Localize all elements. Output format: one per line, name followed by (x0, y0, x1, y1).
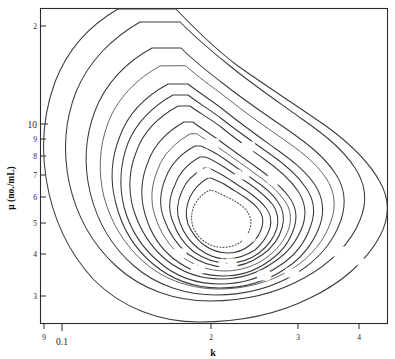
contour-label-12: 0.95 (331, 247, 348, 257)
contour-value-labels: 0.5 0.6 0.2 0.3 0.5 0.1 0.4 0.7 0.75 0.8… (174, 139, 376, 281)
y-tick-label-6: 6 (33, 193, 37, 202)
contour-label-3: 0.3 (236, 170, 248, 180)
plot-frame (41, 9, 388, 324)
contour-label-10: 0.9 (258, 271, 270, 281)
x-tick-label-009: 9 (42, 333, 46, 342)
y-tick-label-8: 8 (33, 152, 37, 161)
contour-path-0_99 (44, 9, 387, 322)
y-tick-label-9: 9 (33, 135, 37, 144)
x-axis-ticks (44, 324, 359, 332)
contour-label-13: 0.99 (359, 258, 376, 268)
plot-canvas: 2 10 9 8 7 6 5 4 3 9 0.1 2 3 4 k μ ( (0, 0, 395, 359)
x-tick-label-01: 0.1 (56, 337, 68, 347)
x-tick-label-3: 3 (296, 333, 300, 342)
x-axis-title: k (210, 347, 216, 358)
contour-path-0_9-inner (100, 66, 334, 289)
y-tick-label-3: 3 (33, 292, 37, 301)
y-axis-title: μ (no./mL) (6, 166, 17, 209)
contour-label-6: 0.4 (242, 232, 254, 242)
contour-label-1: 0.6 (242, 142, 254, 152)
contour-label-5: 0.1 (216, 210, 228, 220)
x-tick-label-4: 4 (357, 333, 361, 342)
x-axis-tick-labels: 9 0.1 2 3 4 (42, 333, 361, 347)
y-tick-label-7: 7 (33, 171, 37, 180)
contour-label-11: 0.9 (286, 268, 298, 278)
y-tick-label-10: 10 (28, 120, 38, 130)
x-tick-label-2: 2 (209, 333, 213, 342)
contour-label-9: 0.8 (192, 264, 204, 274)
contour-label-0: 0.5 (206, 139, 218, 149)
y-axis-tick-labels: 2 10 9 8 7 6 5 4 3 (28, 22, 38, 301)
y-tick-label-20: 2 (33, 22, 37, 31)
contour-curves (44, 9, 387, 322)
y-tick-label-4: 4 (33, 250, 37, 259)
contour-label-7: 0.7 (174, 249, 186, 259)
contour-plot-figure: 2 10 9 8 7 6 5 4 3 9 0.1 2 3 4 k μ ( (0, 0, 395, 359)
contour-path-0_75 (121, 95, 314, 284)
y-tick-label-5: 5 (33, 219, 37, 228)
contour-label-2: 0.2 (198, 168, 210, 178)
contour-path-0_5-outer (152, 134, 291, 271)
contour-label-4: 0.5 (268, 175, 280, 185)
contour-label-8: 0.75 (220, 259, 237, 269)
